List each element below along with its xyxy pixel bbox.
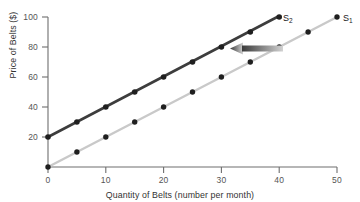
x-tick-label-20: 20: [159, 175, 169, 185]
series-label-s2-sub: 2: [289, 17, 293, 24]
x-tick-label-30: 30: [216, 175, 226, 185]
y-axis-ticks: [42, 17, 48, 137]
y-axis-title: Price of Belts ($): [8, 0, 18, 110]
supply-curve-chart: 100 80 60 40 20 0 10 20 30 40 50 S2 S1 Q…: [0, 0, 360, 202]
y-tick-label-20: 20: [10, 132, 38, 142]
x-tick-label-50: 50: [332, 175, 342, 185]
series-label-s1: S1: [343, 13, 353, 23]
x-tick-label-10: 10: [101, 175, 111, 185]
series-label-s1-sub: 1: [349, 17, 353, 24]
series-label-s2: S2: [283, 13, 293, 23]
x-tick-label-0: 0: [46, 175, 51, 185]
chart-plot-svg: [0, 0, 360, 202]
x-tick-label-40: 40: [274, 175, 284, 185]
supply-shift-arrow: [230, 43, 283, 55]
x-axis-title: Quantity of Belts (number per month): [0, 190, 360, 200]
x-axis-ticks: [48, 167, 337, 173]
